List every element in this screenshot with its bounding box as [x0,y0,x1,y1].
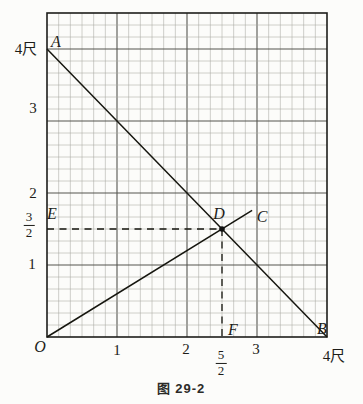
y-tick-4chi: 4尺 [15,42,38,57]
figure-29-2: A B C D E F O 4尺 3 2 3 2 1 1 2 5 2 3 4尺 … [0,0,363,404]
point-label-E: E [47,206,57,222]
fraction-denominator: 2 [218,364,225,379]
x-tick-1: 1 [113,343,121,358]
x-tick-3: 3 [252,342,260,357]
x-tick-4chi: 4尺 [323,349,346,364]
point-label-C: C [257,209,268,225]
point-label-B: B [317,321,327,337]
point-label-O: O [34,339,46,355]
point-label-D: D [213,206,225,222]
y-tick-three-halves: 3 2 [24,210,35,240]
y-tick-1: 1 [28,257,36,272]
point-label-A: A [51,34,61,50]
x-tick-five-halves: 5 2 [216,348,227,378]
fraction-numerator: 3 [24,210,35,226]
fraction-numerator: 5 [216,348,227,364]
fraction-denominator: 2 [26,226,33,241]
figure-caption: 图 29-2 [157,382,206,395]
y-tick-2: 2 [29,186,37,201]
x-tick-2: 2 [182,342,190,357]
y-tick-3: 3 [29,101,37,116]
point-label-F: F [228,322,238,338]
